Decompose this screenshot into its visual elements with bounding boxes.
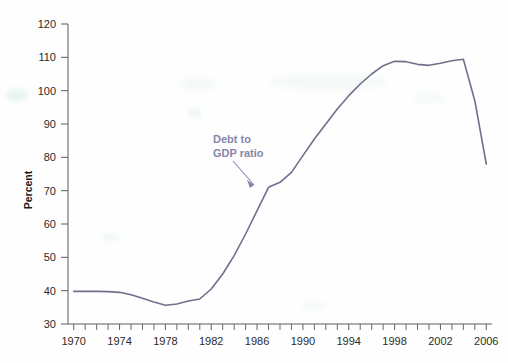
- y-tick-label: 80: [44, 151, 56, 163]
- x-tick-label: 1978: [153, 335, 177, 347]
- y-tick-label: 30: [44, 318, 56, 330]
- y-tick-label: 40: [44, 285, 56, 297]
- x-tick-label: 1998: [382, 335, 406, 347]
- annotation-line1: Debt to: [213, 133, 251, 145]
- line-chart-svg: 30405060708090100110120 1970197419781982…: [0, 0, 508, 363]
- x-tick-label: 1986: [245, 335, 269, 347]
- series-line-debt-to-gdp: [74, 59, 487, 305]
- y-tick-label: 70: [44, 185, 56, 197]
- y-tick-label: 110: [38, 51, 56, 63]
- y-tick-group: 30405060708090100110120: [38, 18, 68, 330]
- x-tick-label: 2002: [428, 335, 452, 347]
- y-tick-label: 60: [44, 218, 56, 230]
- y-axis-title: Percent: [22, 170, 34, 209]
- annotation-line2: GDP ratio: [213, 147, 264, 159]
- x-tick-label: 1970: [61, 335, 85, 347]
- x-tick-label: 1990: [291, 335, 315, 347]
- y-tick-label: 50: [44, 251, 56, 263]
- y-tick-label: 90: [44, 118, 56, 130]
- data-series-group: [74, 59, 487, 305]
- y-tick-label: 120: [38, 18, 56, 30]
- x-tick-label: 1974: [107, 335, 131, 347]
- annotation-arrow-icon: [233, 161, 254, 185]
- x-tick-label: 2006: [474, 335, 498, 347]
- x-tick-group: 1970197419781982198619901994199820022006: [61, 324, 498, 347]
- x-tick-label: 1982: [199, 335, 223, 347]
- y-axis: 30405060708090100110120: [38, 18, 68, 330]
- y-tick-label: 100: [38, 85, 56, 97]
- chart-canvas: 30405060708090100110120 1970197419781982…: [0, 0, 508, 363]
- x-axis: 1970197419781982198619901994199820022006: [61, 324, 498, 347]
- x-tick-label: 1994: [337, 335, 361, 347]
- annotation-group: Debt to GDP ratio: [213, 133, 264, 188]
